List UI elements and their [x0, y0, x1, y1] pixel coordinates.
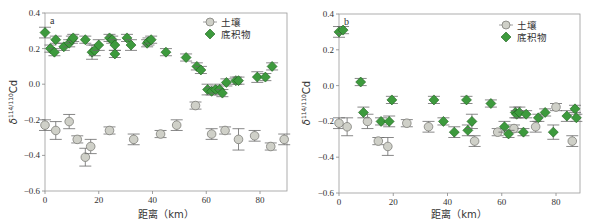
x-tick-label: 60	[202, 195, 212, 205]
x-tick-label: 40	[443, 197, 453, 207]
x-tick-label: 80	[552, 197, 562, 207]
soil-point	[234, 135, 243, 144]
x-tick-label: 20	[94, 195, 104, 205]
soil-point	[552, 103, 561, 112]
y-tick-label: −0.2	[24, 115, 40, 125]
legend: 土壤 底积物	[499, 20, 547, 43]
y-tick-label: 0.2	[29, 44, 40, 54]
y-tick-label: 0.2	[323, 45, 334, 55]
soil-point	[363, 117, 372, 126]
soil-point	[207, 130, 216, 139]
legend-sediment-marker	[205, 29, 215, 39]
chart-panel-a: a 0.40.20.0−0.2−0.4−0.6 020406080 距离（km）…	[7, 8, 290, 220]
legend-soil-label: 土壤	[221, 17, 241, 28]
sediment-point	[358, 107, 368, 117]
data-points	[39, 27, 290, 166]
soil-point	[335, 119, 344, 128]
x-axis: 020406080	[337, 193, 561, 207]
soil-point	[384, 142, 393, 151]
x-tick-label: 20	[389, 197, 399, 207]
legend-soil-marker	[502, 21, 510, 29]
soil-point	[129, 135, 138, 144]
soil-point	[73, 135, 82, 144]
y-axis-label: δ114/110Cd	[300, 81, 312, 125]
svg-text:δ114/110Cd: δ114/110Cd	[7, 80, 19, 124]
x-tick-label: 60	[497, 197, 507, 207]
soil-point	[470, 137, 479, 146]
soil-point	[86, 142, 95, 151]
data-points	[333, 25, 582, 155]
x-axis-label: 距离（km）	[431, 208, 487, 220]
soil-point	[424, 122, 433, 131]
legend-sediment-label: 底积物	[517, 32, 547, 43]
soil-point	[81, 153, 90, 162]
soil-point	[250, 132, 259, 141]
y-tick-label: 0.4	[323, 9, 335, 19]
svg-text:δ114/110Cd: δ114/110Cd	[300, 81, 312, 125]
chart-panel-b: b 0.40.20.0−0.2−0.4−0.6 020406080 距离（km）…	[300, 9, 582, 220]
soil-point	[280, 135, 289, 144]
sediment-point	[449, 127, 459, 137]
panel-label: a	[50, 15, 55, 26]
panel-label: b	[344, 16, 349, 27]
soil-point	[221, 126, 230, 135]
x-tick-label: 0	[43, 195, 48, 205]
soil-point	[105, 126, 114, 135]
x-tick-label: 80	[256, 195, 266, 205]
x-axis: 020406080	[43, 191, 265, 205]
figure: a 0.40.20.0−0.2−0.4−0.6 020406080 距离（km）…	[0, 0, 590, 224]
soil-point	[65, 117, 74, 126]
soil-point	[531, 122, 540, 131]
y-tick-label: −0.4	[318, 152, 335, 162]
soil-point	[41, 121, 50, 130]
legend-sediment-marker	[501, 32, 511, 42]
soil-point	[156, 130, 165, 139]
x-tick-label: 40	[148, 195, 158, 205]
sediment-point	[40, 28, 50, 38]
legend-soil-label: 土壤	[517, 20, 537, 31]
y-tick-label: −0.6	[318, 188, 335, 198]
y-tick-label: 0.0	[323, 81, 335, 91]
soil-point	[568, 137, 577, 146]
legend: 土壤 底积物	[203, 17, 251, 40]
sediment-point	[548, 127, 558, 137]
soil-point	[374, 137, 383, 146]
y-axis-label: δ114/110Cd	[7, 80, 19, 124]
y-tick-label: 0.4	[29, 8, 41, 18]
y-tick-label: −0.2	[318, 116, 334, 126]
y-tick-label: −0.4	[24, 150, 41, 160]
x-axis-label: 距离（km）	[138, 208, 194, 220]
legend-soil-marker	[206, 18, 214, 26]
soil-point	[343, 122, 352, 131]
soil-point	[403, 119, 412, 128]
soil-point	[191, 101, 200, 110]
y-tick-label: 0.0	[29, 79, 41, 89]
y-axis: 0.40.20.0−0.2−0.4−0.6	[24, 8, 45, 196]
x-tick-label: 0	[337, 197, 342, 207]
soil-point	[266, 142, 275, 151]
y-tick-label: −0.6	[24, 186, 41, 196]
soil-point	[51, 126, 60, 135]
soil-point	[172, 121, 181, 130]
sediment-point	[463, 125, 473, 135]
legend-sediment-label: 底积物	[221, 29, 251, 40]
